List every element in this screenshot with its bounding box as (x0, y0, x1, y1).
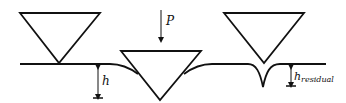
indentation-diagram: h P hresidual (0, 0, 346, 103)
label-h-residual: hresidual (294, 70, 334, 84)
indenter-triangle-left (20, 13, 100, 63)
indenter-triangle-right (224, 13, 304, 63)
label-P: P (165, 14, 175, 28)
stage-under-load: P (121, 10, 201, 100)
stage-before-loading (20, 13, 100, 63)
indenter-triangle-middle (121, 51, 201, 100)
label-h: h (102, 74, 110, 88)
stage-after-unloading: hresidual (224, 13, 334, 86)
depth-indicator-h: h (93, 67, 110, 98)
